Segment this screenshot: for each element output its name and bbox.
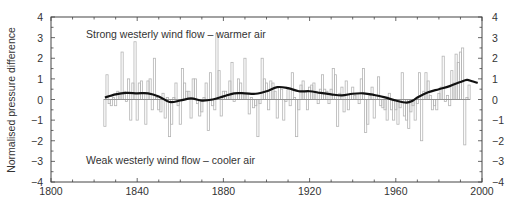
chart-svg: −4−3−2−101234 −4−3−2−101234 180018401880…: [0, 0, 512, 206]
bar: [149, 79, 151, 100]
bar: [175, 83, 177, 100]
bar: [207, 100, 209, 131]
bar: [306, 100, 308, 110]
bar: [136, 100, 138, 121]
bar: [289, 100, 291, 106]
y-axis-left-labels: −4−3−2−101234: [31, 11, 43, 188]
bar: [341, 87, 343, 99]
bar: [218, 71, 220, 100]
annotation-strong-westerly: Strong westerly wind flow – warmer air: [86, 28, 266, 40]
bar: [190, 100, 192, 119]
y-tick-label-right: −4: [492, 176, 504, 188]
y-tick-label-right: 0: [492, 94, 498, 106]
bar: [257, 100, 259, 137]
bar: [153, 58, 155, 99]
bar: [128, 79, 130, 100]
bar: [179, 100, 181, 125]
bar: [429, 95, 431, 99]
bar: [160, 100, 162, 112]
bar: [464, 100, 466, 145]
x-axis-labels: 180018401880192019602000: [39, 185, 494, 197]
bar: [442, 56, 444, 99]
x-tick-label: 1880: [212, 185, 236, 197]
bar: [421, 100, 423, 141]
bar: [151, 100, 153, 110]
y-tick-label-right: −1: [492, 114, 504, 126]
x-tick-label: 1920: [298, 185, 322, 197]
bar: [291, 73, 293, 100]
bar: [326, 91, 328, 99]
y-tick-label: −3: [31, 155, 43, 167]
bar: [130, 100, 132, 121]
y-tick-label-right: −3: [492, 155, 504, 167]
annual-bars: [104, 34, 470, 145]
annotation-weak-westerly: Weak westerly wind flow – cooler air: [86, 154, 256, 166]
bar: [209, 73, 211, 100]
x-tick-label: 1800: [39, 185, 63, 197]
bar: [304, 91, 306, 99]
x-tick-label: 1960: [384, 185, 408, 197]
bar: [328, 100, 330, 104]
bar: [298, 100, 300, 110]
bar: [446, 95, 448, 99]
bar: [276, 100, 278, 119]
bar: [343, 100, 345, 112]
y-tick-label: 1: [37, 73, 43, 85]
x-tick-label: 1840: [126, 185, 150, 197]
bar: [283, 100, 285, 121]
y-tick-label-right: 1: [492, 73, 498, 85]
bar: [362, 69, 364, 100]
bar: [416, 100, 418, 104]
bar: [248, 100, 250, 114]
bar: [268, 100, 270, 110]
y-tick-label: 4: [37, 11, 43, 23]
bar: [274, 91, 276, 99]
chart-container: −4−3−2−101234 −4−3−2−101234 180018401880…: [0, 0, 512, 206]
y-axis-title: Normalised pressure difference: [5, 27, 17, 173]
bar: [345, 81, 347, 100]
bar: [358, 100, 360, 104]
bar: [259, 100, 261, 104]
bar: [145, 100, 147, 125]
bar: [373, 100, 375, 119]
bar: [436, 100, 438, 110]
bar: [281, 89, 283, 99]
bar: [287, 89, 289, 99]
bar: [367, 100, 369, 125]
bar: [214, 100, 216, 110]
y-tick-label: 3: [37, 32, 43, 44]
y-tick-label-right: 3: [492, 32, 498, 44]
y-tick-label-right: 4: [492, 11, 498, 23]
bar: [347, 100, 349, 110]
bar: [104, 100, 106, 127]
bar: [134, 42, 136, 100]
y-tick-label: −1: [31, 114, 43, 126]
bar: [468, 85, 470, 99]
bar: [205, 83, 207, 100]
bar: [220, 100, 222, 117]
bar: [386, 100, 388, 121]
bar: [401, 73, 403, 100]
bar: [115, 100, 117, 106]
bar: [171, 100, 173, 125]
bar: [337, 100, 339, 127]
bar: [194, 79, 196, 100]
y-tick-label: −2: [31, 135, 43, 147]
y-tick-label: 0: [37, 94, 43, 106]
y-axis-right-labels: −4−3−2−101234: [492, 11, 504, 188]
bar: [449, 100, 451, 106]
bar: [110, 100, 112, 106]
bar: [462, 48, 464, 100]
y-tick-label-right: 2: [492, 52, 498, 64]
bar: [164, 100, 166, 119]
y-tick-label: 2: [37, 52, 43, 64]
bar: [317, 100, 319, 104]
y-tick-label-right: −2: [492, 135, 504, 147]
x-tick-label: 2000: [470, 185, 494, 197]
